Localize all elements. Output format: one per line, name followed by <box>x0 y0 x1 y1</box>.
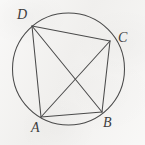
vertex-label-B: B <box>103 116 112 130</box>
segment-BC <box>102 41 110 112</box>
segment-DA <box>32 26 41 117</box>
segment-AB <box>41 112 102 117</box>
segment-CD <box>32 26 110 41</box>
vertex-label-A: A <box>31 121 40 135</box>
vertex-label-C: C <box>118 31 127 45</box>
diagonal-BD <box>32 26 102 112</box>
geometry-figure: D C A B <box>0 0 145 145</box>
vertex-label-D: D <box>17 8 27 22</box>
circumscribed-circle <box>13 13 125 125</box>
